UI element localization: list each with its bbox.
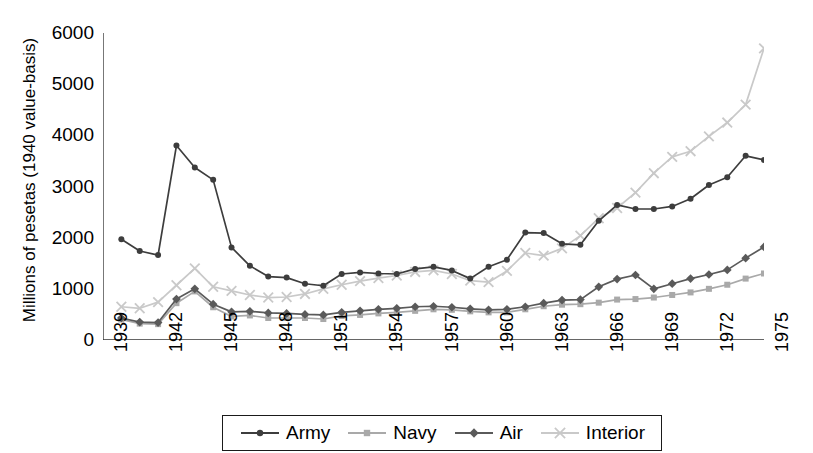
- x-axis-tick-label: 1954: [386, 312, 407, 352]
- x-axis-tick-label: 1969: [662, 312, 683, 352]
- legend-swatch-diamond-icon: [453, 425, 495, 441]
- legend-item-interior[interactable]: Interior: [539, 422, 645, 444]
- legend-swatch-x-icon: [539, 425, 581, 441]
- x-axis-tick-label: 1942: [166, 312, 187, 352]
- chart-legend: ArmyNavyAirInterior: [222, 415, 662, 451]
- x-axis-tick-label: 1963: [552, 312, 573, 352]
- x-axis-tick-label: 1972: [717, 312, 738, 352]
- legend-swatch-square-icon: [346, 425, 388, 441]
- x-axis-tick-label: 1948: [276, 312, 297, 352]
- legend-label: Army: [286, 422, 330, 444]
- legend-item-air[interactable]: Air: [453, 422, 523, 444]
- data-point-marker: [469, 428, 478, 437]
- x-axis-tick-label: 1957: [442, 312, 463, 352]
- legend-swatch-circle-icon: [239, 425, 281, 441]
- legend-label: Navy: [393, 422, 436, 444]
- legend-label: Air: [500, 422, 523, 444]
- x-axis-tick-label: 1966: [607, 312, 628, 352]
- data-point-marker: [257, 430, 263, 436]
- x-axis-tick-label: 1975: [772, 312, 793, 352]
- chart-figure: Millions of pesetas (1940 value-basis) 0…: [0, 0, 813, 453]
- x-axis-tick-labels: 1939194219451948195119541957196019631966…: [0, 0, 813, 453]
- legend-item-navy[interactable]: Navy: [346, 422, 436, 444]
- legend-label: Interior: [586, 422, 645, 444]
- legend-item-army[interactable]: Army: [239, 422, 330, 444]
- x-axis-tick-label: 1960: [497, 312, 518, 352]
- x-axis-tick-label: 1951: [331, 312, 352, 352]
- x-axis-tick-label: 1939: [111, 312, 132, 352]
- data-point-marker: [364, 430, 370, 436]
- x-axis-tick-label: 1945: [221, 312, 242, 352]
